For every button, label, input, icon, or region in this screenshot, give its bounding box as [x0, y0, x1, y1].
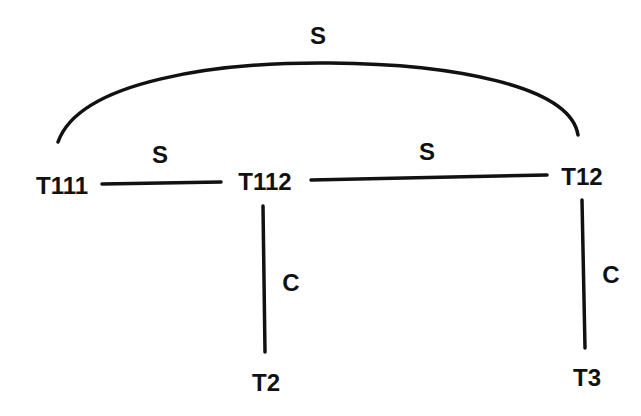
edge-t112-t2 — [263, 206, 265, 352]
relation-diagram: S S S C C T111 T112 T12 T2 T3 — [0, 0, 641, 416]
edge-label-t112-t12: S — [419, 138, 435, 165]
node-t2: T2 — [252, 369, 280, 396]
edge-t112-t12 — [311, 175, 547, 180]
edge-t12-t3 — [582, 200, 585, 348]
edge-label-t111-t12: S — [310, 22, 326, 49]
edge-label-t111-t112: S — [152, 141, 168, 168]
edge-label-t112-t2: C — [282, 269, 299, 296]
edge-label-t12-t3: C — [602, 261, 619, 288]
edge-t111-t112 — [102, 182, 221, 184]
node-t112: T112 — [238, 168, 291, 195]
edge-t111-t12-arc — [58, 63, 578, 142]
node-t111: T111 — [36, 172, 88, 199]
node-t12: T12 — [561, 163, 602, 190]
node-t3: T3 — [573, 364, 601, 391]
